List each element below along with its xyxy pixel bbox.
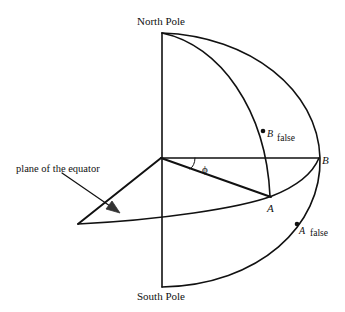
point-a-label: A (266, 202, 274, 214)
point-b-label: B (322, 154, 329, 166)
south-pole-label: South Pole (137, 290, 185, 302)
outer-meridian (162, 33, 320, 287)
equator-pointer-arrowhead (106, 201, 120, 213)
point-b-false-label: B (267, 128, 273, 139)
plane-of-equator-label: plane of the equator (16, 163, 100, 174)
north-pole-label: North Pole (137, 15, 185, 27)
radius-oa (161, 158, 271, 197)
point-b-false-dot (261, 129, 266, 134)
sphere-diagram: North Pole South Pole plane of the equat… (0, 0, 345, 312)
point-a-false-label: A (298, 225, 306, 236)
angle-phi-label: ϕ (202, 163, 208, 175)
angle-arc (190, 158, 195, 169)
equator-pointer-line (62, 173, 110, 206)
point-a-false-suffix: false (310, 228, 328, 238)
equator-curve (78, 158, 319, 224)
point-b-false-suffix: false (277, 133, 295, 143)
